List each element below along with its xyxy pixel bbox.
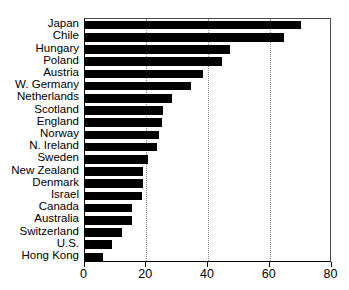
bar-japan [85,21,301,30]
bar-row [85,118,330,127]
category-label: Hong Kong [0,250,79,262]
bar-row [85,33,330,42]
category-label: Canada [0,201,79,213]
bar-row [85,228,330,237]
bar-w-germany [85,82,192,91]
bar-netherlands [85,94,173,103]
bar-row [85,167,330,176]
bar-row [85,253,330,262]
gridline-40 [208,19,209,261]
bar-switzerland [85,228,122,237]
bar-australia [85,216,133,225]
category-label: Hungary [0,43,79,55]
plot-area [84,18,331,262]
bar-sweden [85,155,148,164]
bar-row [85,131,330,140]
bar-row [85,82,330,91]
category-axis-labels: JapanChileHungaryPolandAustriaW. Germany… [0,18,81,262]
bar-row [85,45,330,54]
category-label: Sweden [0,152,79,164]
bar-row [85,94,330,103]
category-label: England [0,116,79,128]
category-label: Israel [0,189,79,201]
bar-austria [85,70,204,79]
bar-scotland [85,106,164,115]
bar-row [85,106,330,115]
bar-row [85,240,330,249]
bar-new-zealand [85,167,144,176]
bar-canada [85,204,133,213]
x-tick-label: 80 [324,268,338,281]
category-label: Netherlands [0,91,79,103]
bar-row [85,179,330,188]
category-label: Austria [0,67,79,79]
bar-row [85,70,330,79]
bar-hungary [85,45,230,54]
bar-hong-kong [85,253,104,262]
category-label: Chile [0,30,79,42]
x-tick-label: 20 [138,268,152,281]
bar-u-s [85,240,113,249]
bar-england [85,118,162,127]
bar-n-ireland [85,143,158,152]
bar-row [85,204,330,213]
category-label: Poland [0,55,79,67]
gridline-60 [270,19,271,261]
category-label: Norway [0,128,79,140]
category-label: U.S. [0,238,79,250]
category-label: Australia [0,213,79,225]
bar-row [85,192,330,201]
category-label: New Zealand [0,165,79,177]
bar-row [85,21,330,30]
bar-row [85,143,330,152]
x-tick-label: 60 [262,268,276,281]
category-label: Switzerland [0,226,79,238]
bar-row [85,155,330,164]
x-tick-label: 40 [200,268,214,281]
x-tick-label: 0 [80,268,87,281]
bar-row [85,216,330,225]
bar-chart: JapanChileHungaryPolandAustriaW. Germany… [0,0,349,290]
category-label: N. Ireland [0,140,79,152]
bar-poland [85,57,222,66]
bar-denmark [85,179,144,188]
category-label: Denmark [0,177,79,189]
category-label: W. Germany [0,79,79,91]
bar-chile [85,33,284,42]
gridline-20 [146,19,147,261]
category-label: Japan [0,18,79,30]
bar-norway [85,131,159,140]
bar-row [85,57,330,66]
category-label: Scotland [0,104,79,116]
bar-israel [85,192,142,201]
